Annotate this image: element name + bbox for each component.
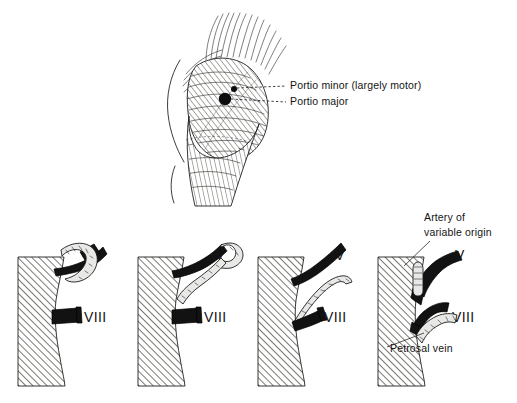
panel-4-label-v: V [455,247,465,263]
panel-3-label-v: V [335,247,345,263]
cranial-nerve-viii-1 [52,308,80,324]
artery-callout-line2: variable origin [424,226,492,238]
petrosal-vein-label: Petrosal vein [390,342,453,354]
cranial-nerve-viii-tip-2 [196,307,202,323]
portio-major-dot [219,93,231,105]
cranial-nerve-viii-2 [172,308,200,324]
panel-2-label-viii: VIII [204,309,227,325]
anatomical-plate: Portio minor (largely motor) Portio majo… [0,0,517,403]
portio-minor-label: Portio minor (largely motor) [290,79,421,91]
portio-minor-dot [231,86,237,92]
cranial-nerve-viii-tip-1 [76,307,82,323]
panel-3-label-viii: VIII [324,309,347,325]
portio-major-label: Portio major [290,95,349,107]
panel-1-label-v: V [95,247,105,263]
panel-1-label-viii: VIII [84,309,107,325]
artery-callout-line1: Artery of [424,211,465,223]
